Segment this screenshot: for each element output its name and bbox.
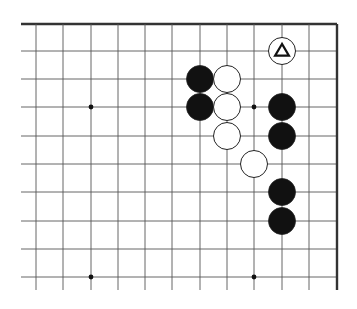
white-stone-icon xyxy=(241,151,268,178)
black-stone-icon xyxy=(269,123,296,150)
white-stone-icon xyxy=(214,94,241,121)
white-stone-icon xyxy=(269,38,296,65)
black-stone[interactable] xyxy=(269,94,296,121)
black-stone-icon xyxy=(187,66,214,93)
star-point-icon xyxy=(252,275,257,280)
star-point-icon xyxy=(89,275,94,280)
white-stone[interactable] xyxy=(241,151,268,178)
black-stone-icon xyxy=(269,179,296,206)
star-point-icon xyxy=(89,105,94,110)
black-stone-icon xyxy=(269,208,296,235)
white-stone-icon xyxy=(214,123,241,150)
board-grid xyxy=(21,24,337,290)
white-stone-icon xyxy=(214,66,241,93)
white-stone[interactable] xyxy=(214,123,241,150)
black-stone[interactable] xyxy=(187,94,214,121)
star-point-icon xyxy=(252,105,257,110)
black-stone[interactable] xyxy=(269,123,296,150)
go-board xyxy=(0,0,357,309)
black-stone[interactable] xyxy=(269,208,296,235)
black-stone-icon xyxy=(187,94,214,121)
white-stone[interactable] xyxy=(214,94,241,121)
black-stone-icon xyxy=(269,94,296,121)
white-stone[interactable] xyxy=(214,66,241,93)
black-stone[interactable] xyxy=(187,66,214,93)
white-stone[interactable] xyxy=(269,38,296,65)
black-stone[interactable] xyxy=(269,179,296,206)
